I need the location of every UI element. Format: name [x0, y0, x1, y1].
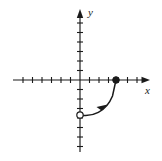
graph-canvas [0, 0, 162, 161]
x-axis-label: x [145, 85, 150, 96]
curve-path [80, 80, 116, 116]
plotted-curve-group [80, 80, 116, 116]
x-axis-group [13, 77, 150, 83]
x-axis-arrowhead [142, 77, 151, 83]
coordinate-plane-figure: y x [0, 0, 162, 161]
closed-endpoint-marker [113, 77, 120, 84]
y-axis-arrowhead [77, 9, 83, 18]
y-axis-label: y [88, 7, 93, 18]
open-endpoint-marker [77, 112, 83, 118]
